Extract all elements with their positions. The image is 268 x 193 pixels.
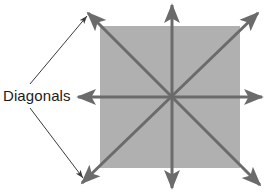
diagonals-diagram: Diagonals — [0, 0, 268, 193]
diagonals-label: Diagonals — [3, 87, 71, 104]
diagram-container: Diagonals — [0, 0, 268, 193]
